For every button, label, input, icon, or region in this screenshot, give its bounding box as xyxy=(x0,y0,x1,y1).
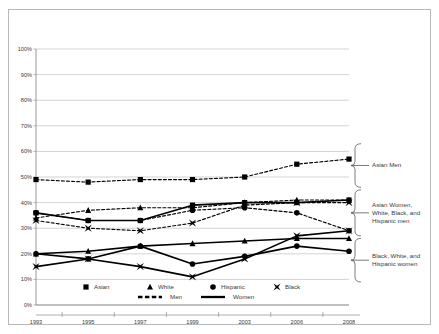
legend-item-men[interactable]: Men xyxy=(138,293,183,300)
y-tick-label: 90% xyxy=(21,72,32,78)
annotation-label: Hispanic women xyxy=(372,260,418,267)
legend-item-asian[interactable]: Asian xyxy=(83,283,110,290)
annotation-label: Asian Men xyxy=(372,161,402,168)
x-axis-tick-labels: 1993199519971999200320062008 xyxy=(30,319,355,325)
x-axis-tick-marks xyxy=(62,312,323,317)
data-point-marker xyxy=(346,197,351,202)
data-point-marker xyxy=(138,218,143,223)
data-point-marker xyxy=(346,156,351,161)
legend-label: Black xyxy=(285,283,301,290)
circle-marker-icon xyxy=(210,284,216,290)
data-point-marker xyxy=(33,177,38,182)
chart-legend: AsianWhiteHispanicBlackMenWomen xyxy=(83,283,301,300)
annotation-label: Hispanic men xyxy=(372,217,410,224)
data-point-marker xyxy=(85,207,91,213)
legend-label: Women xyxy=(233,293,255,300)
x-tick-label: 2008 xyxy=(343,319,355,325)
y-tick-label: 80% xyxy=(21,97,32,103)
y-tick-label: 20% xyxy=(21,251,32,257)
annotation-label: White, Black, and xyxy=(372,209,421,216)
data-point-marker xyxy=(138,177,143,182)
data-point-marker xyxy=(190,203,195,208)
y-tick-label: 0% xyxy=(24,302,32,308)
data-point-marker xyxy=(294,200,299,205)
y-axis-tick-labels: 0%10%20%30%40%50%60%70%80%90%100% xyxy=(18,46,32,308)
legend-label: White xyxy=(158,283,174,290)
series-white-women xyxy=(33,235,352,256)
data-point-marker xyxy=(242,200,247,205)
chart-screenshot: 0%10%20%30%40%50%60%70%80%90%100% 199319… xyxy=(0,0,439,334)
annotation-asian-women-white-black-hispanic-men: Asian Women,White, Black, andHispanic me… xyxy=(351,190,421,236)
legend-label: Hispanic xyxy=(221,283,245,290)
y-tick-label: 100% xyxy=(18,46,32,52)
data-point-marker xyxy=(294,162,299,167)
y-tick-label: 70% xyxy=(21,123,32,129)
x-tick-label: 2006 xyxy=(291,319,303,325)
data-point-marker xyxy=(190,207,196,213)
data-point-marker xyxy=(33,210,38,215)
data-point-marker xyxy=(294,243,300,249)
y-tick-label: 40% xyxy=(21,200,32,206)
legend-label: Men xyxy=(170,293,183,300)
line-chart: 0%10%20%30%40%50%60%70%80%90%100% 199319… xyxy=(0,0,439,334)
y-tick-label: 30% xyxy=(21,225,32,231)
data-point-marker xyxy=(294,210,300,216)
chart-annotations: Asian MenAsian Women,White, Black, andHi… xyxy=(351,144,421,282)
data-point-marker xyxy=(33,251,39,257)
annotation-label: Black, White, and xyxy=(372,252,421,259)
data-point-marker xyxy=(242,174,247,179)
data-series-layer xyxy=(32,156,352,280)
square-marker-icon xyxy=(83,284,88,289)
x-tick-label: 1993 xyxy=(30,319,42,325)
x-tick-label: 1995 xyxy=(82,319,94,325)
series-hispanic-women xyxy=(33,243,352,267)
y-tick-label: 10% xyxy=(21,276,32,282)
annotation-asian-men: Asian Men xyxy=(351,144,402,188)
x-tick-label: 1997 xyxy=(134,319,146,325)
legend-item-white[interactable]: White xyxy=(147,283,174,290)
legend-item-black[interactable]: Black xyxy=(273,283,301,291)
bowtie-marker-icon xyxy=(273,283,280,290)
data-point-marker xyxy=(346,248,352,254)
data-point-marker xyxy=(138,243,144,249)
data-point-marker xyxy=(190,261,196,267)
annotation-black-white-hispanic-women: Black, White, andHispanic women xyxy=(351,238,421,282)
annotation-label: Asian Women, xyxy=(372,201,412,208)
data-point-marker xyxy=(86,180,91,185)
legend-item-women[interactable]: Women xyxy=(201,293,255,300)
y-tick-label: 50% xyxy=(21,174,32,180)
data-point-marker xyxy=(86,218,91,223)
legend-item-hispanic[interactable]: Hispanic xyxy=(210,283,245,290)
legend-label: Asian xyxy=(94,283,110,290)
data-point-marker xyxy=(190,177,195,182)
x-tick-label: 1999 xyxy=(186,319,198,325)
series-asian-men xyxy=(33,156,351,184)
triangle-marker-icon xyxy=(147,284,153,290)
y-tick-label: 60% xyxy=(21,148,32,154)
x-tick-label: 2003 xyxy=(238,319,250,325)
